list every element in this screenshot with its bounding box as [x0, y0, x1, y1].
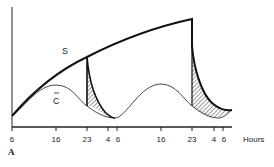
sleep-regulation-diagram: 6 16 23 4 6 16 23 4 6 Hours S C A: [0, 0, 274, 167]
tick-label: 16: [157, 135, 166, 144]
tick-label: 6: [10, 135, 15, 144]
c-curve-label: C: [53, 96, 60, 106]
tick-label: 6: [222, 135, 227, 144]
s-curve-label: S: [62, 46, 68, 56]
x-axis-title: Hours: [243, 135, 264, 144]
tick-label: 4: [106, 135, 111, 144]
hatched-area-2: [192, 46, 232, 118]
tick-label: 6: [116, 135, 121, 144]
tick-label: 16: [52, 135, 61, 144]
x-axis-tick-labels: 6 16 23 4 6 16 23 4 6: [10, 135, 227, 144]
tick-label: 4: [212, 135, 217, 144]
tick-label: 23: [188, 135, 197, 144]
tick-label: 23: [83, 135, 92, 144]
panel-label: A: [8, 147, 15, 157]
